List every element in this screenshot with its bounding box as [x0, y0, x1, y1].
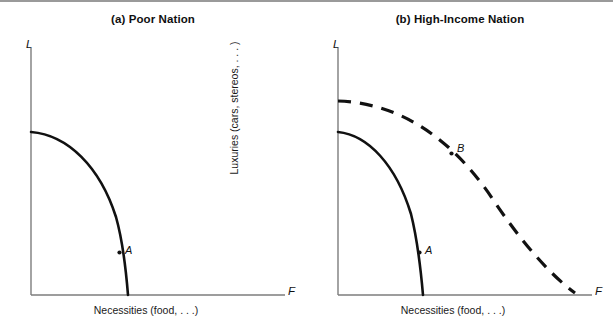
panel-b-y-axis-title: Luxuries (cars, stereos, . . . ) [228, 16, 244, 200]
panel-a-x-axis-title: Necessities (food, . . .) [31, 304, 261, 316]
panel-poor-nation: (a) Poor Nation L F A Luxuries (cars, st… [0, 2, 306, 321]
panel-a-x-axis-letter: F [288, 285, 295, 297]
figure-container: (a) Poor Nation L F A Luxuries (cars, st… [0, 0, 613, 321]
panel-b-plot [307, 2, 613, 321]
panel-a-y-axis-letter: L [26, 38, 32, 50]
ppf-curve-poor [31, 132, 128, 295]
panel-b-y-axis-letter: L [333, 38, 339, 50]
panel-b-svg [307, 2, 613, 321]
ppf-curve-high-income [338, 101, 575, 293]
panel-a-plot [0, 2, 306, 321]
panel-high-income-nation: (b) High-Income Nation L F A B Luxurie [307, 2, 613, 321]
ppf-curve-poor [338, 132, 423, 295]
panel-b-point-a-label: A [425, 244, 432, 256]
point-a-marker [117, 250, 121, 254]
panel-b-x-axis-letter: F [595, 285, 602, 297]
panel-a-point-a-label: A [125, 244, 132, 256]
panel-b-point-b-label: B [457, 142, 464, 154]
point-a-marker [417, 250, 421, 254]
panel-a-svg [0, 2, 306, 321]
point-b-marker [449, 151, 453, 155]
panel-b-x-axis-title: Necessities (food, . . .) [338, 304, 568, 316]
